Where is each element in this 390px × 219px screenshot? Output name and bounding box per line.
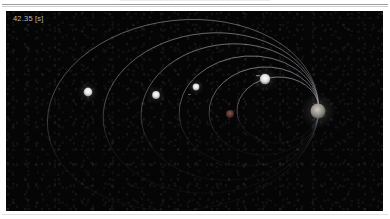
simulation-time-readout: 42.35 [s] [13, 14, 44, 24]
planet-mid[interactable] [193, 84, 200, 91]
planet-bright[interactable] [260, 74, 270, 84]
footer-rule [2, 214, 388, 215]
header-rule-primary [2, 4, 388, 5]
orbits-layer [38, 11, 328, 211]
orbit-1-outermost [38, 11, 328, 211]
viewport-corner-label: ··· ·· ·········· ··· ·· [341, 15, 377, 23]
page-header-running-text: ——————————————————————————— [0, 0, 390, 3]
bodies-layer [78, 67, 336, 129]
trail-marker-2 [188, 94, 191, 95]
orbit-scene [6, 11, 383, 211]
planet-outer-2[interactable] [152, 91, 160, 99]
planet-inner[interactable] [226, 110, 234, 118]
central-star[interactable] [311, 104, 326, 119]
header-rule-secondary [2, 6, 388, 7]
orbit-2 [96, 24, 325, 202]
page-root: ——————————————————————————— [0, 0, 390, 219]
planet-outer-1[interactable] [84, 88, 93, 97]
simulation-viewport[interactable]: 42.35 [s] ··· ·· ·········· ··· ·· [6, 11, 383, 211]
